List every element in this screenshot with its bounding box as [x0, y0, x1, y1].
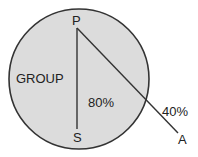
point-a-label: A	[178, 133, 187, 146]
group-label: GROUP	[16, 72, 64, 85]
edge-label-40: 40%	[162, 105, 188, 118]
point-p-label: P	[72, 14, 81, 27]
point-s-label: S	[73, 131, 82, 144]
edge-label-80: 80%	[88, 96, 114, 109]
